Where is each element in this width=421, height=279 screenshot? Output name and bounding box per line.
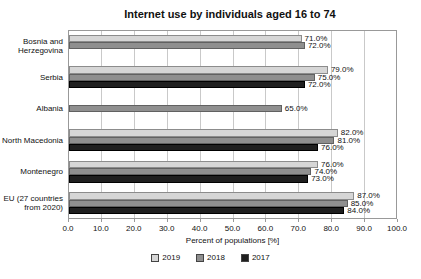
chart-title: Internet use by individuals aged 16 to 7… — [60, 8, 400, 20]
gridline — [331, 31, 332, 218]
axis-tick — [233, 219, 234, 222]
category-label: Albania — [36, 104, 63, 113]
bar-2019-montenegro — [69, 161, 318, 168]
bar-2019-north-macedonia — [69, 129, 338, 136]
legend-label-2018: 2018 — [207, 253, 225, 262]
axis-tick — [298, 219, 299, 222]
category-label: Bosnia and Herzegovina — [18, 37, 63, 55]
bar-value-label-2017-serbia: 72.0% — [308, 81, 331, 89]
bar-2017-eu-27-countries — [69, 207, 344, 214]
axis-tick — [364, 219, 365, 222]
bar-2018-eu-27-countries — [69, 200, 348, 207]
axis-tick — [167, 219, 168, 222]
bar-2018-serbia — [69, 74, 315, 81]
gridline — [167, 31, 168, 218]
gridline — [101, 31, 102, 218]
legend-label-2019: 2019 — [162, 253, 180, 262]
gridline — [233, 31, 234, 218]
bar-2019-serbia — [69, 66, 328, 73]
axis-tick — [265, 219, 266, 222]
bar-value-label-2017-montenegro: 73.0% — [311, 175, 334, 183]
legend-item-2017: 2017 — [241, 253, 270, 262]
gridline — [200, 31, 201, 218]
legend-swatch-2018 — [196, 254, 204, 262]
category-label: Montenegro — [20, 167, 63, 176]
category-label: Serbia — [40, 73, 63, 82]
axis-tick — [331, 219, 332, 222]
bar-2017-montenegro — [69, 175, 308, 182]
legend: 201920182017 — [0, 253, 421, 262]
gridline — [134, 31, 135, 218]
bar-2017-north-macedonia — [69, 144, 318, 151]
bar-value-label-2017-eu-27-countries: 84.0% — [347, 207, 370, 215]
bar-2018-albania — [69, 105, 282, 112]
bar-2018-bosnia-and — [69, 42, 305, 49]
category-label: EU (27 countries from 2020) — [3, 194, 63, 212]
category-label: North Macedonia — [2, 136, 63, 145]
legend-swatch-2017 — [241, 254, 249, 262]
legend-item-2019: 2019 — [151, 253, 180, 262]
legend-swatch-2019 — [151, 254, 159, 262]
bar-value-label-2018-bosnia-and: 72.0% — [308, 42, 331, 50]
bar-value-label-2018-albania: 65.0% — [285, 105, 308, 113]
bar-2019-eu-27-countries — [69, 192, 354, 199]
bar-2017-serbia — [69, 81, 305, 88]
axis-tick — [134, 219, 135, 222]
bar-chart: Internet use by individuals aged 16 to 7… — [0, 0, 421, 279]
gridline — [298, 31, 299, 218]
legend-label-2017: 2017 — [252, 253, 270, 262]
bar-2018-montenegro — [69, 168, 311, 175]
x-axis-label: Percent of populations [%] — [68, 236, 397, 245]
axis-tick — [101, 219, 102, 222]
bar-2019-bosnia-and — [69, 35, 302, 42]
gridline — [364, 31, 365, 218]
bar-value-label-2017-north-macedonia: 76.0% — [321, 144, 344, 152]
axis-tick — [68, 219, 69, 222]
axis-tick — [397, 219, 398, 222]
x-tick-label: 100.0 — [377, 224, 417, 233]
axis-tick — [200, 219, 201, 222]
gridline — [265, 31, 266, 218]
legend-item-2018: 2018 — [196, 253, 225, 262]
bar-2018-north-macedonia — [69, 137, 334, 144]
